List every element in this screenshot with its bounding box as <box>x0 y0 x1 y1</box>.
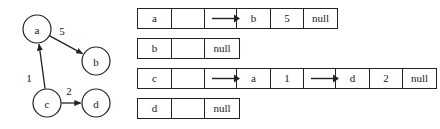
cell-pointer <box>205 69 238 88</box>
graph-edge-c-to-a <box>39 44 45 88</box>
cell-weight: 5 <box>271 9 304 28</box>
cell-weight <box>172 99 205 118</box>
cell-null: null <box>205 39 239 58</box>
adjacency-row-d: dnull <box>130 98 440 119</box>
figure-canvas: 512abcd ab5nullbnullca1d2nulldnull <box>0 0 440 129</box>
cell-null: null <box>403 69 436 88</box>
cell-pointer <box>205 9 238 28</box>
cell-key: d <box>138 99 172 118</box>
cell-null: null <box>205 99 239 118</box>
list-node-a-1[interactable]: b5null <box>236 8 338 29</box>
graph-node-label-d: d <box>93 98 99 109</box>
list-head-c[interactable]: c <box>137 68 239 89</box>
edge-weight-a-b: 5 <box>59 26 65 37</box>
edge-weight-c-a: 1 <box>26 73 32 84</box>
cell-weight <box>172 39 205 58</box>
cell-weight: 1 <box>271 69 304 88</box>
list-head-d[interactable]: dnull <box>137 98 240 119</box>
list-head-a[interactable]: a <box>137 8 239 29</box>
adjacency-list: ab5nullbnullca1d2nulldnull <box>130 0 440 129</box>
list-node-c-1[interactable]: a1 <box>236 68 338 89</box>
cell-weight: 2 <box>370 69 403 88</box>
graph-node-label-c: c <box>45 98 50 109</box>
cell-pointer <box>304 69 337 88</box>
adjacency-row-b: bnull <box>130 38 440 59</box>
adjacency-row-c: ca1d2null <box>130 68 440 89</box>
cell-key: b <box>138 39 172 58</box>
graph-edge-a-to-b <box>50 36 83 54</box>
cell-key: b <box>237 9 271 28</box>
graph-svg <box>0 0 130 129</box>
list-head-b[interactable]: bnull <box>137 38 240 59</box>
graph-node-label-b: b <box>93 56 99 67</box>
list-node-c-2[interactable]: d2null <box>335 68 437 89</box>
cell-weight <box>172 9 205 28</box>
cell-weight <box>172 69 205 88</box>
adjacency-row-a: ab5null <box>130 8 440 29</box>
graph-diagram: 512abcd <box>0 0 130 129</box>
graph-node-label-a: a <box>35 24 40 35</box>
cell-key: d <box>336 69 370 88</box>
cell-key: c <box>138 69 172 88</box>
cell-key: a <box>138 9 172 28</box>
cell-null: null <box>304 9 337 28</box>
edge-weight-c-d: 2 <box>66 86 72 97</box>
cell-key: a <box>237 69 271 88</box>
